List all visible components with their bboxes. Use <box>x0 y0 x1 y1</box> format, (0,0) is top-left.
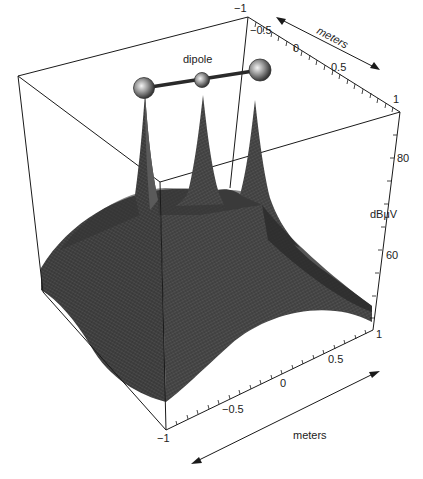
bottom-tick-05: 0.5 <box>328 353 343 365</box>
dipole-right-sphere <box>249 59 271 81</box>
bottom-tick-0: 0 <box>280 377 286 389</box>
bottom-tick-neg1: −1 <box>157 432 170 444</box>
bottom-tick-1: 1 <box>376 328 382 340</box>
dipole-label: dipole <box>183 53 212 65</box>
top-tick-05: 0.5 <box>331 61 346 73</box>
top-axis-label: meters <box>315 24 351 51</box>
dipole-illustration: dipole <box>134 53 272 99</box>
bottom-axis-label: meters <box>293 429 327 441</box>
top-tick-0: 0 <box>293 42 299 54</box>
dipole-left-sphere <box>134 78 155 99</box>
surface-plot: dipole −1 −0.5 0 0.5 1 <box>0 0 423 479</box>
top-tick-neg05: −0.5 <box>250 24 272 36</box>
z-axis-label: dBμV <box>370 208 398 220</box>
surface-mesh <box>41 93 372 402</box>
bottom-tick-neg05: −0.5 <box>222 403 244 415</box>
top-tick-neg1: −1 <box>234 2 247 14</box>
z-tick-60: 60 <box>386 249 398 261</box>
top-tick-1: 1 <box>393 93 399 105</box>
z-tick-80: 80 <box>397 152 409 164</box>
dipole-center-sphere <box>195 73 210 88</box>
z-axis: 80 dBμV 60 <box>370 135 409 318</box>
